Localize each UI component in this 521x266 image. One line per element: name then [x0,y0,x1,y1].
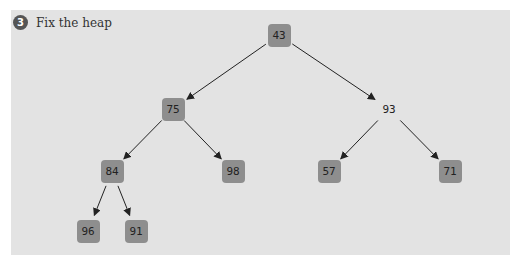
heap-node: 43 [268,24,291,47]
heap-node: 71 [439,160,462,183]
heap-node: 93 [378,98,401,121]
heap-node: 98 [222,160,245,183]
heap-node: 57 [318,160,341,183]
tree-edge [94,186,106,215]
tree-edge [341,120,378,158]
heap-node: 75 [162,98,185,121]
heap-node: 91 [125,220,148,243]
tree-edge [187,44,266,99]
tree-edge [400,120,438,158]
tree-edge [292,44,375,100]
heap-node: 96 [77,220,100,243]
tree-edge [184,120,221,158]
tree-edge [118,186,130,215]
heap-node: 84 [101,160,124,183]
tree-edge [124,120,162,158]
